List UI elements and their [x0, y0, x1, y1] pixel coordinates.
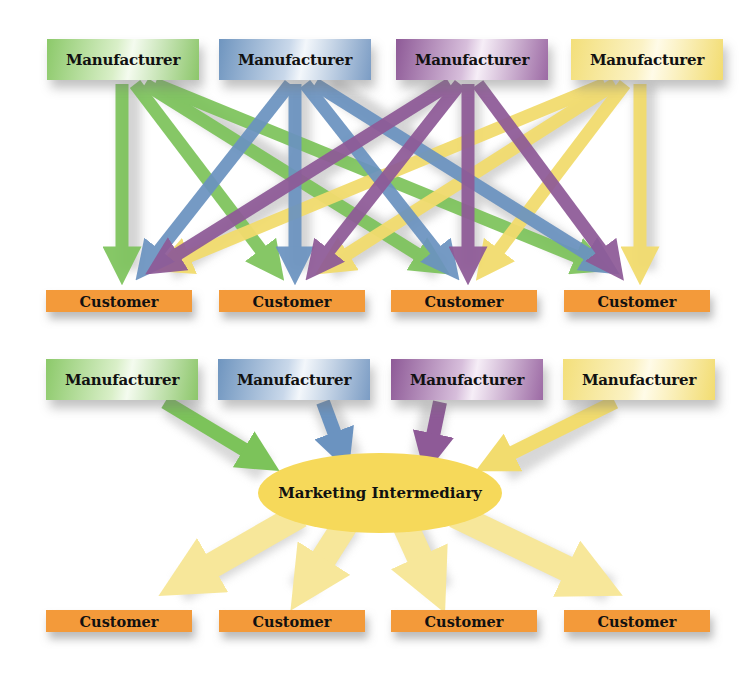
top-customer-1: Customer: [46, 290, 192, 312]
top-manufacturer-4: Manufacturer: [571, 39, 723, 80]
marketing-intermediary-node: Marketing Intermediary: [258, 453, 502, 533]
top-customer-4: Customer: [564, 290, 710, 312]
bottom-customer-1: Customer: [46, 610, 192, 632]
top-customer-3: Customer: [391, 290, 537, 312]
bottom-manufacturer-2: Manufacturer: [218, 359, 370, 400]
bottom-manufacturer-3: Manufacturer: [391, 359, 543, 400]
bottom-customer-2: Customer: [219, 610, 365, 632]
bottom-manufacturer-4: Manufacturer: [563, 359, 715, 400]
top-manufacturer-2: Manufacturer: [219, 39, 371, 80]
bottom-manufacturer-1: Manufacturer: [46, 359, 198, 400]
top-customer-2: Customer: [219, 290, 365, 312]
top-manufacturer-3: Manufacturer: [396, 39, 548, 80]
bottom-customer-3: Customer: [391, 610, 537, 632]
connection-arrows: [0, 0, 754, 679]
bottom-customer-4: Customer: [564, 610, 710, 632]
top-manufacturer-1: Manufacturer: [47, 39, 199, 80]
